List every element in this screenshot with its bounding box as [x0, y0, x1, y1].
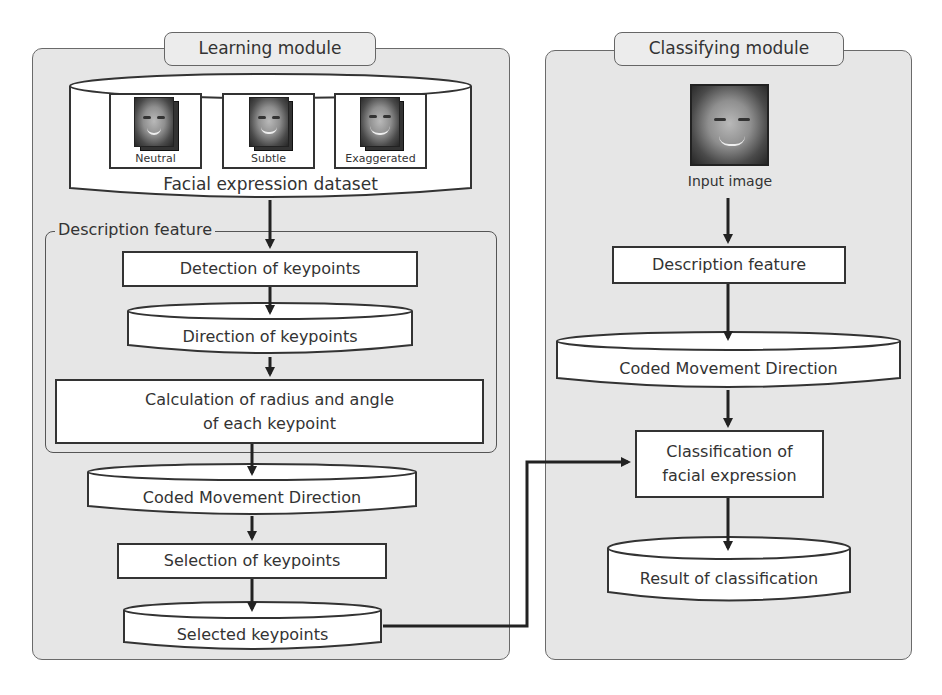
classification-of-facial-expression-box: Classification of facial expression: [635, 430, 824, 498]
coded-movement-direction-cylinder-classifying: Coded Movement Direction: [555, 330, 902, 392]
sample-label-exaggerated: Exaggerated: [336, 152, 425, 165]
result-of-classification-label: Result of classification: [606, 569, 852, 588]
selected-keypoints-label: Selected keypoints: [122, 625, 383, 644]
classifying-module-title: Classifying module: [614, 32, 844, 66]
result-of-classification-cylinder: Result of classification: [606, 535, 852, 605]
face-image-icon: [360, 97, 400, 147]
face-image-icon: [134, 97, 174, 147]
sample-label-neutral: Neutral: [111, 152, 200, 165]
classification-line-2: facial expression: [662, 464, 796, 488]
sample-label-subtle: Subtle: [224, 152, 313, 165]
input-face-image-icon: [690, 84, 769, 166]
direction-of-keypoints-cylinder: Direction of keypoints: [126, 301, 414, 357]
input-image-label: Input image: [650, 173, 810, 189]
calculation-line-2: of each keypoint: [203, 412, 336, 436]
selection-of-keypoints-box: Selection of keypoints: [117, 543, 387, 579]
description-feature-group-label: Description feature: [55, 221, 215, 239]
face-image-icon: [249, 97, 289, 147]
sample-card-exaggerated: Exaggerated: [334, 93, 427, 169]
sample-card-subtle: Subtle: [222, 93, 315, 169]
selected-keypoints-cylinder: Selected keypoints: [122, 600, 383, 652]
classification-line-1: Classification of: [666, 440, 792, 464]
coded-movement-direction-label-learning: Coded Movement Direction: [86, 488, 418, 507]
calculation-radius-angle-box: Calculation of radius and angle of each …: [55, 379, 484, 444]
dataset-label: Facial expression dataset: [68, 174, 473, 194]
coded-movement-direction-label-classifying: Coded Movement Direction: [555, 359, 902, 378]
calculation-line-1: Calculation of radius and angle: [145, 388, 394, 412]
detection-of-keypoints-box: Detection of keypoints: [122, 251, 418, 287]
coded-movement-direction-cylinder-learning: Coded Movement Direction: [86, 462, 418, 518]
learning-module-title: Learning module: [164, 32, 376, 66]
direction-of-keypoints-label: Direction of keypoints: [126, 327, 414, 346]
description-feature-box-classifying: Description feature: [612, 246, 846, 284]
sample-card-neutral: Neutral: [109, 93, 202, 169]
